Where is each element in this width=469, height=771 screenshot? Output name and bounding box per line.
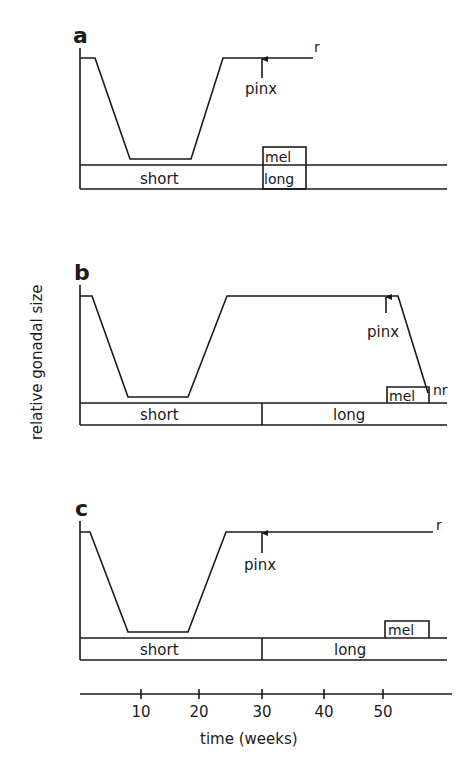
x-tick-label: 10 xyxy=(131,703,150,721)
x-tick-label: 40 xyxy=(314,703,333,721)
panel-label: a xyxy=(73,23,88,48)
panels: arpinxshortmellongbnrpinxshortlongmelcrp… xyxy=(73,23,448,660)
x-axis-label: time (weeks) xyxy=(200,730,298,748)
gonadal-size-figure: relative gonadal size arpinxshortmellong… xyxy=(0,0,469,771)
gonadal-size-curve xyxy=(80,58,313,159)
melatonin-label: mel xyxy=(388,622,414,638)
y-axis-label: relative gonadal size xyxy=(28,285,46,440)
x-tick-label: 20 xyxy=(189,703,208,721)
x-tick-label: 50 xyxy=(373,703,392,721)
melatonin-label: mel xyxy=(265,149,291,165)
gonadal-size-curve xyxy=(80,532,433,632)
panel-label: b xyxy=(74,260,90,285)
pinx-label: pinx xyxy=(245,80,277,98)
response-label: nr xyxy=(433,382,448,398)
long-day-label: long xyxy=(333,406,365,424)
panel-label: c xyxy=(75,496,88,521)
x-axis: 1020304050 time (weeks) xyxy=(80,689,452,748)
gonadal-size-curve xyxy=(80,296,428,397)
short-day-label: short xyxy=(140,641,179,659)
long-day-label: long xyxy=(264,171,294,187)
short-day-label: short xyxy=(140,406,179,424)
panel-a: arpinxshortmellong xyxy=(73,23,447,189)
pinx-label: pinx xyxy=(244,556,276,574)
response-label: r xyxy=(314,39,320,55)
long-day-label: long xyxy=(334,641,366,659)
pinx-label: pinx xyxy=(367,323,399,341)
response-label: r xyxy=(436,517,442,533)
short-day-label: short xyxy=(140,170,179,188)
panel-b: bnrpinxshortlongmel xyxy=(74,260,448,425)
panel-c: crpinxshortlongmel xyxy=(75,496,447,660)
melatonin-label: mel xyxy=(389,388,415,404)
x-tick-label: 30 xyxy=(252,703,271,721)
